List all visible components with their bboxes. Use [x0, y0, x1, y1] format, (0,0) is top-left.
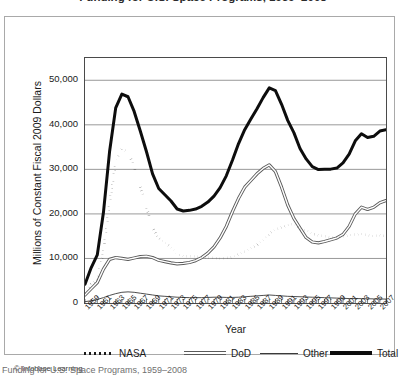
legend-label: Total	[377, 348, 398, 359]
y-tick-label: 10,000	[32, 251, 78, 262]
figure-title-strip: Funding for U.S. Space Programs, 1959–20…	[0, 0, 406, 10]
legend-item-other: Other	[260, 345, 328, 361]
y-tick-label: 50,000	[32, 73, 78, 84]
legend-item-total: Total	[330, 345, 398, 361]
chart-canvas	[85, 58, 386, 303]
legend-label: Other	[303, 348, 328, 359]
figure-title: Funding for U.S. Space Programs, 1959–20…	[0, 0, 406, 3]
series-total	[85, 88, 386, 284]
legend-swatch-total	[330, 351, 372, 354]
legend-item-dod: DoD	[184, 345, 251, 361]
legend-label: NASA	[119, 348, 146, 359]
figure-caption-strip: Funding for U.S. Space Programs, 1959–20…	[0, 366, 406, 376]
chart-legend: NASADoDOtherTotal	[84, 345, 387, 361]
legend-swatch-nasa	[84, 352, 114, 355]
legend-label: DoD	[231, 348, 251, 359]
chart-card: Millions of Constant Fiscal 2009 Dollars…	[4, 16, 395, 355]
legend-swatch-other	[260, 353, 298, 354]
series-nasa	[85, 149, 386, 293]
figure-caption: Funding for U.S. Space Programs, 1959–20…	[2, 366, 187, 375]
plot-area	[84, 57, 387, 304]
legend-swatch-dod	[184, 351, 226, 355]
y-tick-label: 40,000	[32, 118, 78, 129]
y-tick-label: 30,000	[32, 162, 78, 173]
series-dod-inner	[85, 165, 386, 295]
y-tick-label: 0	[32, 296, 78, 307]
legend-item-nasa: NASA	[84, 345, 146, 361]
y-tick-label: 20,000	[32, 207, 78, 218]
series-dod-outer	[85, 165, 386, 295]
x-axis-title: Year	[84, 323, 387, 335]
figure-page: Funding for U.S. Space Programs, 1959–20…	[0, 0, 406, 376]
series-dod	[85, 165, 386, 295]
